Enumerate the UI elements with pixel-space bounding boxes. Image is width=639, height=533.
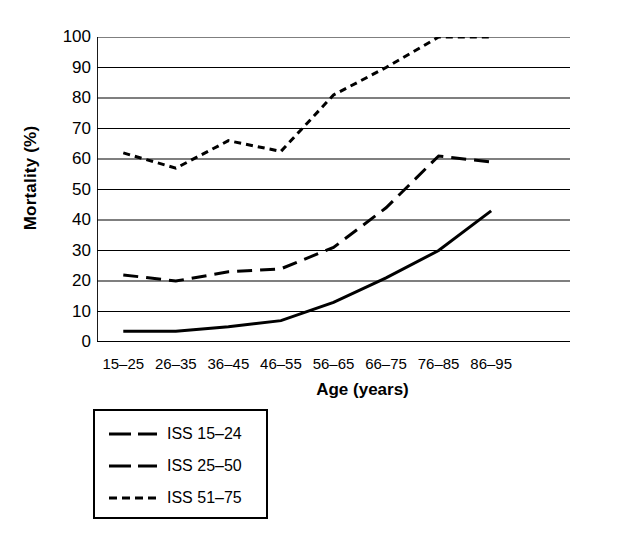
y-tick-label-100: 100 [45,28,91,45]
y-tick-label-50: 50 [45,181,91,198]
data-series-group [123,37,491,331]
plot-area [97,37,570,342]
legend-label-0: ISS 15–24 [167,425,242,443]
y-tick-label-20: 20 [45,272,91,289]
x-tick-label-7: 86–95 [456,356,526,371]
legend-swatch-dashed-icon [107,458,159,474]
series-line-2 [123,37,491,168]
y-axis-title: Mortality (%) [21,103,41,253]
y-tick-label-0: 0 [45,333,91,350]
legend-label-1: ISS 25–50 [167,457,242,475]
legend-swatch-dotted-icon [107,490,159,506]
y-tick-label-10: 10 [45,303,91,320]
gridlines [97,37,570,342]
series-line-1 [123,156,491,281]
legend-swatch-solid-icon [107,426,159,442]
legend-label-2: ISS 51–75 [167,489,242,507]
legend-item-0: ISS 15–24 [95,419,266,449]
x-axis-title: Age (years) [0,380,639,400]
y-tick-label-30: 30 [45,242,91,259]
series-line-0 [123,211,491,331]
legend-item-2: ISS 51–75 [95,483,266,513]
y-tick-label-70: 70 [45,120,91,137]
y-tick-label-60: 60 [45,150,91,167]
mortality-by-age-chart: Mortality (%) 0102030405060708090100 15–… [0,0,639,533]
y-tick-label-80: 80 [45,89,91,106]
y-tick-label-90: 90 [45,59,91,76]
y-tick-label-40: 40 [45,211,91,228]
legend-item-1: ISS 25–50 [95,451,266,481]
legend-box: ISS 15–24 ISS 25–50 ISS 51–75 [93,409,268,519]
plot-canvas [97,37,570,342]
